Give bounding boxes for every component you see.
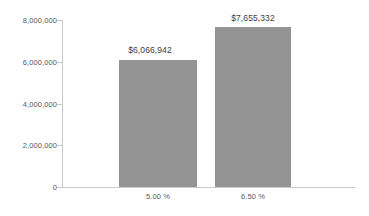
x-axis-tick-labels: 5.00 % 6.50 % (62, 193, 355, 207)
bar-6.50-percent[interactable] (215, 27, 291, 187)
y-axis-tick-label-2000000: 2,000,000 (5, 142, 57, 150)
y-axis-tick-label-0: 0 (5, 184, 57, 192)
bar-value-label-5.00-percent: $6,066,942 (96, 46, 204, 55)
bar-5.00-percent[interactable] (119, 60, 197, 187)
y-axis-tick-label-4000000: 4,000,000 (5, 101, 57, 109)
bar-chart: 8,000,000 6,000,000 4,000,000 2,000,000 … (0, 0, 369, 216)
x-axis-line (62, 187, 355, 188)
y-axis-tick-labels: 8,000,000 6,000,000 4,000,000 2,000,000 … (0, 0, 57, 216)
x-axis-tick-label-6.50-percent: 6.50 % (203, 193, 303, 201)
bar-value-label-6.50-percent: $7,655,332 (199, 14, 307, 23)
y-axis-tick-label-6000000: 6,000,000 (5, 59, 57, 67)
x-axis-tick-label-5.00-percent: 5.00 % (108, 193, 208, 201)
y-axis-tick-label-8000000: 8,000,000 (5, 17, 57, 25)
